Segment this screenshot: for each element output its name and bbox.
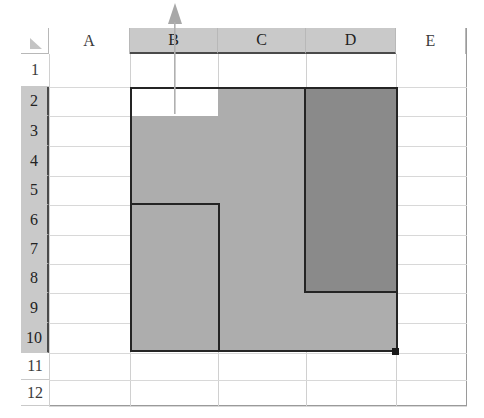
column-header-e[interactable]: E <box>396 28 466 54</box>
row-gridline-10 <box>49 353 467 354</box>
outline-b-notch-top <box>130 203 220 205</box>
spreadsheet-canvas: ABCDE 123456789101112 B2:D10 <box>0 0 484 418</box>
row-gridline-11 <box>49 380 467 381</box>
selection-range-label: B2:D10 <box>0 0 1 1</box>
outline-right <box>396 87 398 352</box>
range-d-shade <box>306 87 396 293</box>
up-arrow-pointer <box>166 2 184 114</box>
row-header-2[interactable]: 2 <box>21 87 49 116</box>
range-d-lower-shade <box>306 293 396 352</box>
column-header-a[interactable]: A <box>49 28 130 54</box>
outline-left <box>130 87 132 352</box>
row-header-3[interactable]: 3 <box>21 116 49 146</box>
row-header-12[interactable]: 12 <box>21 380 49 406</box>
outline-bottom <box>130 350 398 352</box>
outline-d-notch-side <box>304 87 306 293</box>
row-header-5[interactable]: 5 <box>21 176 49 205</box>
select-all-button[interactable] <box>21 28 49 54</box>
row-header-4[interactable]: 4 <box>21 146 49 176</box>
row-header-1[interactable]: 1 <box>21 54 49 87</box>
row-header-11[interactable]: 11 <box>21 353 49 380</box>
row-header-10[interactable]: 10 <box>21 323 49 353</box>
column-header-d[interactable]: D <box>306 28 396 54</box>
outline-b-notch-side <box>218 203 220 352</box>
range-c-top-shade <box>218 87 306 116</box>
column-header-c[interactable]: C <box>218 28 306 54</box>
row-header-9[interactable]: 9 <box>21 293 49 323</box>
outline-d-notch-base <box>304 291 398 293</box>
row-header-8[interactable]: 8 <box>21 264 49 293</box>
row-header-7[interactable]: 7 <box>21 235 49 264</box>
row-header-6[interactable]: 6 <box>21 205 49 235</box>
row-gridline-12 <box>49 406 467 407</box>
select-all-triangle-icon <box>29 37 45 50</box>
fill-handle[interactable] <box>392 348 399 355</box>
